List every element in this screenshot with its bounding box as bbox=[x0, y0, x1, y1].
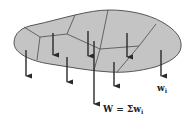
element-weight-label: wi bbox=[156, 83, 168, 94]
weight-distribution-diagram: wi W = Σwi bbox=[0, 0, 192, 125]
total-weight-equation: W = Σwi bbox=[102, 104, 144, 115]
